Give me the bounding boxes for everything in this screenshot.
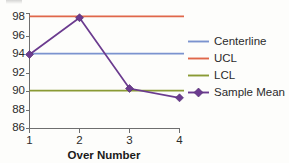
legend-label-sample-mean: Sample Mean bbox=[214, 86, 285, 98]
sample-mean-point-4 bbox=[176, 94, 184, 102]
legend-item-sample-mean[interactable]: Sample Mean bbox=[188, 86, 285, 98]
legend-item-centerline[interactable]: Centerline bbox=[188, 35, 266, 47]
sample-mean-series bbox=[26, 14, 184, 102]
y-tick-label-96: 96 bbox=[12, 29, 25, 41]
legend-item-ucl[interactable]: UCL bbox=[188, 52, 238, 64]
x-axis bbox=[30, 129, 181, 133]
legend-label-ucl: UCL bbox=[214, 52, 238, 64]
legend-item-lcl[interactable]: LCL bbox=[188, 69, 236, 81]
y-tick-label-98: 98 bbox=[12, 10, 25, 22]
x-axis-tick-labels: 1 2 3 4 bbox=[26, 134, 183, 146]
x-axis-title: Over Number bbox=[68, 149, 141, 161]
y-tick-label-90: 90 bbox=[12, 84, 25, 96]
y-axis-tick-labels: 86 88 90 92 94 96 98 bbox=[12, 10, 25, 133]
y-tick-label-86: 86 bbox=[12, 121, 25, 133]
control-chart: 86 88 90 92 94 96 98 bbox=[0, 0, 289, 163]
y-tick-label-94: 94 bbox=[12, 47, 25, 59]
sample-mean-line bbox=[30, 18, 180, 98]
y-tick-label-92: 92 bbox=[12, 66, 25, 78]
legend-label-lcl: LCL bbox=[214, 69, 236, 81]
chart-legend: Centerline UCL LCL Sample Mean bbox=[188, 35, 285, 98]
y-tick-label-88: 88 bbox=[12, 103, 25, 115]
x-tick-label-2: 2 bbox=[76, 134, 82, 146]
y-axis bbox=[26, 13, 30, 129]
x-tick-label-3: 3 bbox=[126, 134, 132, 146]
legend-marker-sample-mean bbox=[194, 88, 203, 97]
x-tick-label-1: 1 bbox=[26, 134, 32, 146]
chart-canvas: 86 88 90 92 94 96 98 bbox=[0, 0, 289, 163]
sample-mean-markers bbox=[26, 14, 184, 102]
legend-label-centerline: Centerline bbox=[214, 35, 266, 47]
x-tick-label-4: 4 bbox=[176, 134, 183, 146]
